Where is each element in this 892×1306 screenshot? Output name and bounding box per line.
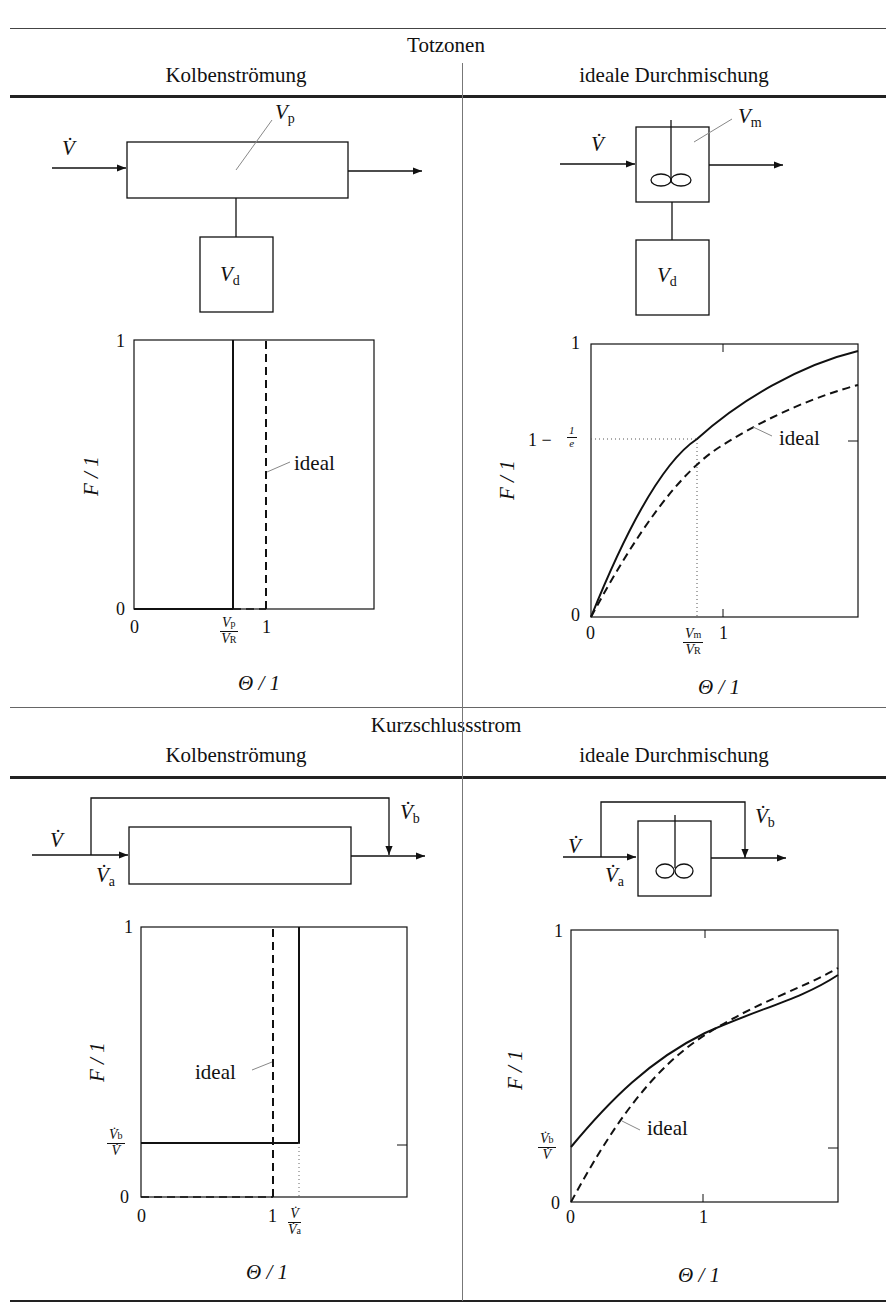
frac-num-sub: b bbox=[549, 1134, 554, 1145]
main-volume-subscript: m bbox=[751, 115, 762, 130]
plot-frame bbox=[571, 930, 838, 1202]
x-tick-1: 1 bbox=[699, 1208, 708, 1226]
dead-volume-subscript: d bbox=[233, 273, 240, 288]
inflow-label: V̇ bbox=[591, 134, 604, 155]
frac-den: V̇ bbox=[288, 1222, 297, 1237]
main-volume-symbol: V bbox=[275, 100, 288, 124]
y-tick-1: 1 bbox=[116, 332, 125, 350]
bypass-subscript: b bbox=[413, 811, 420, 826]
tick-text: 1 − bbox=[528, 430, 552, 450]
main-volume-subscript: p bbox=[288, 111, 295, 126]
x-tick-1: 1 bbox=[262, 618, 271, 636]
x-tick-0: 0 bbox=[137, 1207, 146, 1225]
inflow-label: V̇ bbox=[62, 138, 75, 159]
leader-line bbox=[236, 120, 272, 170]
frac-num-sub: b bbox=[118, 1130, 123, 1141]
diagram-plug-flow-bypass bbox=[32, 798, 425, 884]
curve-ideal bbox=[571, 968, 838, 1202]
y-axis-label: F / 1 bbox=[85, 1042, 110, 1082]
stirrer-blade-icon bbox=[671, 174, 691, 186]
main-volume-symbol: V bbox=[738, 104, 751, 128]
y-tick-0: 0 bbox=[551, 1194, 560, 1212]
main-volume-label: Vp bbox=[275, 102, 295, 126]
figure-canvas bbox=[0, 0, 892, 1306]
leader-line bbox=[694, 119, 732, 142]
y-axis-label: F / 1 bbox=[495, 460, 520, 500]
x-axis-label: Θ / 1 bbox=[246, 1262, 288, 1283]
main-volume-label: Vm bbox=[738, 106, 762, 130]
x-tick-1: 1 bbox=[719, 624, 728, 642]
y-tick-0: 0 bbox=[571, 606, 580, 624]
x-tick-v-va: V̇V̇a bbox=[288, 1207, 301, 1237]
x-axis-label: Θ / 1 bbox=[698, 677, 740, 698]
stirrer-blade-icon bbox=[675, 864, 693, 878]
frac-num-sub: m bbox=[694, 629, 702, 640]
y-tick-1: 1 bbox=[571, 334, 580, 352]
leader-line bbox=[622, 1121, 640, 1130]
x-axis-label: Θ / 1 bbox=[678, 1265, 720, 1286]
annotation-ideal: ideal bbox=[294, 453, 335, 474]
y-tick-1: 1 bbox=[554, 922, 563, 940]
plot-dead-zone-plug-flow bbox=[134, 340, 374, 609]
frac-num: V̇ bbox=[290, 1206, 299, 1221]
reactor-flow-label: V̇a bbox=[96, 865, 115, 889]
leader-line bbox=[252, 1062, 272, 1070]
plug-flow-reactor bbox=[127, 142, 348, 198]
reactor-flow-subscript: a bbox=[109, 874, 115, 889]
inflow-label: V̇ bbox=[568, 836, 581, 857]
stirred-tank bbox=[636, 127, 709, 202]
curve-real bbox=[141, 927, 299, 1143]
frac-den-sub: a bbox=[297, 1225, 301, 1236]
bypass-label: V̇b bbox=[755, 806, 775, 830]
x-tick-vp-vr: VpVR bbox=[220, 616, 238, 646]
reactor-flow-subscript: a bbox=[618, 874, 624, 889]
frac-num: V̇ bbox=[540, 1131, 549, 1146]
annotation-ideal: ideal bbox=[195, 1062, 236, 1083]
y-axis-label: F / 1 bbox=[79, 456, 104, 496]
curve-real bbox=[571, 975, 838, 1147]
dead-volume-label: Vd bbox=[220, 264, 240, 288]
frac-den: V bbox=[221, 631, 230, 646]
stirrer-blade-icon bbox=[656, 864, 674, 878]
plot-frame bbox=[591, 344, 858, 617]
y-tick-1-minus-1-over-e: 1 − bbox=[528, 431, 552, 449]
frac-num-sub: p bbox=[231, 618, 236, 629]
frac-den: V̇ bbox=[543, 1147, 552, 1162]
bypass-symbol: V̇ bbox=[755, 804, 768, 828]
curve-ideal bbox=[591, 385, 858, 617]
bypass-symbol: V̇ bbox=[400, 800, 413, 824]
plot-frame bbox=[134, 340, 374, 609]
dead-volume-subscript: d bbox=[670, 274, 677, 289]
dead-volume-label: Vd bbox=[657, 265, 677, 289]
y-tick-vb-v: V̇bV̇ bbox=[107, 1128, 125, 1158]
diagram-cstr-bypass bbox=[563, 802, 786, 896]
frac-den: e bbox=[569, 438, 574, 450]
plot-bypass-plug-flow bbox=[141, 927, 407, 1197]
reactor-flow-symbol: V̇ bbox=[96, 863, 109, 887]
y-tick-1: 1 bbox=[124, 918, 133, 936]
frac-den: V̇ bbox=[112, 1143, 121, 1158]
plot-dead-zone-ideal-mixing bbox=[591, 344, 858, 617]
frac-num: V bbox=[222, 615, 231, 630]
frac-num: 1 bbox=[567, 425, 577, 438]
stirrer-blade-icon bbox=[651, 174, 671, 186]
annotation-ideal: ideal bbox=[779, 428, 820, 449]
x-axis-label: Θ / 1 bbox=[238, 673, 280, 694]
y-tick-0: 0 bbox=[116, 600, 125, 618]
plot-bypass-ideal-mixing bbox=[571, 930, 838, 1202]
frac-den-sub: R bbox=[230, 634, 237, 645]
y-tick-0: 0 bbox=[120, 1188, 129, 1206]
bypass-label: V̇b bbox=[400, 802, 420, 826]
frac-num: V̇ bbox=[109, 1127, 118, 1142]
frac-den-sub: R bbox=[694, 645, 701, 656]
x-tick-0: 0 bbox=[586, 624, 595, 642]
x-tick-0: 0 bbox=[130, 618, 139, 636]
leader-line bbox=[753, 427, 772, 436]
bypass-line bbox=[601, 802, 745, 858]
frac-num: V bbox=[685, 626, 694, 641]
y-tick-frac-1-over-e: 1e bbox=[567, 425, 577, 449]
bypass-subscript: b bbox=[768, 815, 775, 830]
reactor-flow-symbol: V̇ bbox=[605, 863, 618, 887]
leader-line bbox=[267, 462, 290, 472]
x-tick-1: 1 bbox=[268, 1207, 277, 1225]
